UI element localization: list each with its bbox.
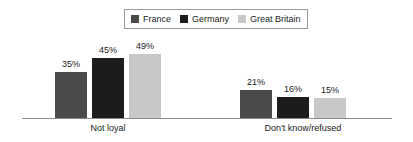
legend-swatch-icon [238,15,246,23]
bar-value-label: 49% [136,42,154,51]
x-axis-line [22,118,392,119]
legend-swatch-icon [131,15,139,23]
x-axis-group-label: Not loyal [90,123,125,133]
chart-legend: FranceGermanyGreat Britain [124,9,308,29]
bar-value-label: 45% [99,46,117,55]
legend-label: France [143,15,171,24]
bar: 35% [55,72,87,118]
legend-entry: Great Britain [238,15,301,24]
bar-value-label: 35% [62,60,80,69]
legend-label: Germany [192,15,229,24]
legend-entry: France [131,15,171,24]
x-axis-group-label: Don't know/refused [265,123,342,133]
bar: 45% [92,58,124,118]
bar-chart: FranceGermanyGreat Britain 35%45%49%21%1… [0,0,413,142]
legend-label: Great Britain [250,15,301,24]
bar-value-label: 16% [284,85,302,94]
bar: 15% [314,98,346,118]
bar-value-label: 21% [247,78,265,87]
legend-entry: Germany [180,15,229,24]
bar: 21% [240,90,272,118]
bar: 49% [129,54,161,118]
bar: 16% [277,97,309,118]
bar-value-label: 15% [321,86,339,95]
legend-swatch-icon [180,15,188,23]
